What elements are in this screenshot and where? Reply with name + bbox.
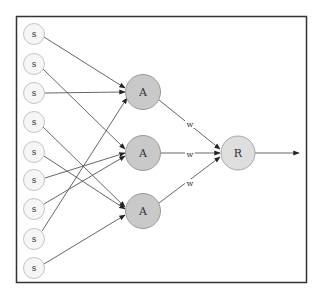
svg-text:s: s [32,117,37,127]
svg-text:s: s [32,204,37,214]
sensor-node: s [24,199,45,220]
weight-label-1: w [187,120,194,129]
association-node: A [126,194,161,229]
perceptron-diagram: w w w s s s s s s s s s A A A R [0,0,321,298]
weight-label-3: w [187,179,194,188]
svg-text:s: s [32,147,37,157]
diagram-frame [17,17,307,283]
svg-text:s: s [32,263,37,273]
sensor-node: s [24,83,45,104]
association-node: A [126,136,161,171]
sensor-node: s [24,24,45,45]
weight-label-2: w [187,150,194,159]
sensor-node: s [24,258,45,279]
svg-text:s: s [32,88,37,98]
svg-text:s: s [32,29,37,39]
svg-text:A: A [138,86,148,99]
svg-text:A: A [138,205,148,218]
sensor-node: s [24,142,45,163]
svg-text:s: s [32,59,37,69]
svg-text:s: s [32,234,37,244]
sensor-node: s [24,170,45,191]
response-node: R [221,136,255,170]
sensor-node: s [24,229,45,250]
sensor-node: s [24,112,45,133]
association-node: A [126,75,161,110]
sensor-node: s [24,54,45,75]
svg-text:A: A [138,147,148,160]
svg-text:s: s [32,175,37,185]
association-layer: A A A [126,75,161,229]
svg-text:R: R [234,147,243,160]
sensor-layer: s s s s s s s s s [24,24,45,279]
